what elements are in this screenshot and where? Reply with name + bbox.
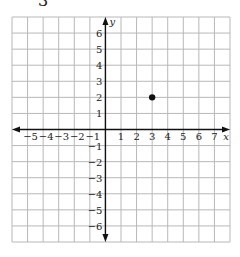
y-axis-label: y (108, 16, 115, 27)
y-tick-label: 4 (96, 60, 102, 71)
x-tick-label: −2 (70, 131, 85, 142)
y-tick-label: 6 (96, 28, 102, 39)
data-point (149, 94, 155, 100)
y-tick-label: −6 (88, 221, 103, 232)
y-tick-label: −4 (88, 189, 103, 200)
y-tick-label: −1 (88, 141, 103, 152)
x-tick-label: 6 (196, 131, 202, 142)
x-tick-label: 3 (149, 131, 155, 142)
y-tick-label: 5 (96, 44, 102, 55)
x-tick-label: 2 (133, 131, 139, 142)
y-tick-label: 1 (96, 108, 102, 119)
y-tick-label: −2 (88, 157, 103, 168)
x-axis-label: x (223, 131, 229, 142)
x-axis-left-arrow-icon (12, 127, 20, 133)
y-axis-up-arrow-icon (102, 17, 108, 25)
y-tick-label: 3 (96, 76, 102, 87)
y-tick-label: −5 (88, 205, 103, 216)
y-tick-label: −3 (88, 173, 103, 184)
y-axis-down-arrow-icon (102, 234, 108, 242)
x-tick-label: −5 (23, 131, 38, 142)
x-tick-label: 1 (118, 131, 124, 142)
y-tick-label: 2 (96, 92, 102, 103)
x-tick-label: 7 (211, 131, 217, 142)
coordinate-plane: −5−4−3−2−11234567654321−1−2−3−4−5−6xy (0, 0, 240, 257)
x-tick-label: −4 (39, 131, 54, 142)
x-tick-label: −3 (54, 131, 69, 142)
x-tick-label: 4 (165, 131, 171, 142)
x-tick-label: 5 (180, 131, 186, 142)
data-points (149, 94, 155, 100)
